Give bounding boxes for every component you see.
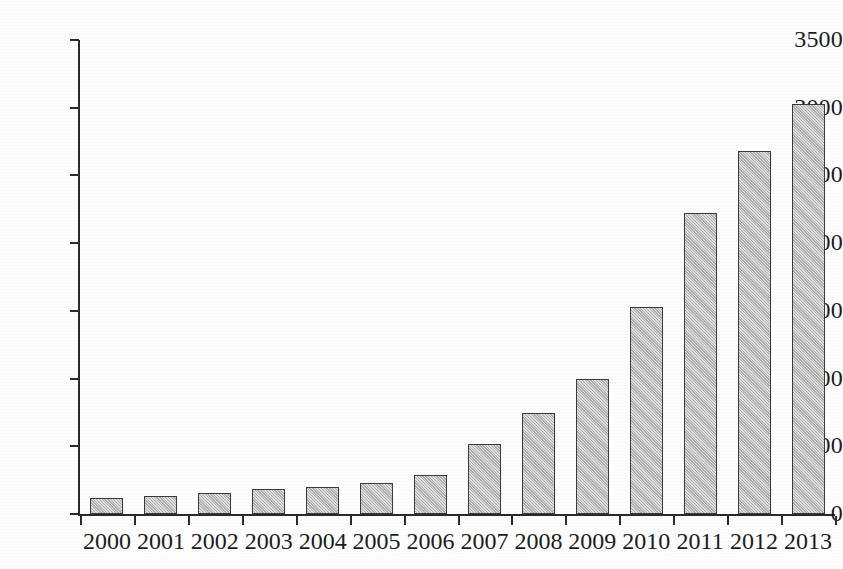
x-tick-mark <box>404 516 406 525</box>
x-tick-mark <box>458 516 460 525</box>
x-tick-label: 2002 <box>185 528 245 554</box>
x-tick-mark <box>350 516 352 525</box>
bar-2013 <box>792 104 825 514</box>
bar-2002 <box>198 493 231 514</box>
x-tick-label: 2010 <box>616 528 676 554</box>
bar-2012 <box>738 151 771 514</box>
bar-2011 <box>684 213 717 514</box>
x-tick-label: 2009 <box>562 528 622 554</box>
x-tick-mark <box>727 516 729 525</box>
bar-2009 <box>576 379 609 514</box>
bar-chart: 0500100015002000250030003500 20002001200… <box>0 0 843 569</box>
bar-2008 <box>522 413 555 514</box>
y-tick-mark <box>70 310 79 312</box>
x-tick-mark <box>80 516 82 525</box>
bar-2007 <box>468 444 501 514</box>
x-tick-label: 2006 <box>401 528 461 554</box>
y-tick-mark <box>70 39 79 41</box>
x-tick-label: 2008 <box>508 528 568 554</box>
bar-2004 <box>306 487 339 514</box>
x-tick-label: 2005 <box>347 528 407 554</box>
y-tick-mark <box>70 174 79 176</box>
x-tick-mark <box>781 516 783 525</box>
x-tick-mark <box>673 516 675 525</box>
x-tick-mark <box>565 516 567 525</box>
x-tick-mark <box>511 516 513 525</box>
y-tick-mark <box>70 513 79 515</box>
bar-2000 <box>90 498 123 514</box>
x-tick-label: 2000 <box>77 528 137 554</box>
x-tick-mark <box>296 516 298 525</box>
x-axis-line <box>78 514 835 516</box>
x-tick-label: 2003 <box>239 528 299 554</box>
x-tick-label: 2004 <box>293 528 353 554</box>
x-tick-label: 2007 <box>454 528 514 554</box>
bar-2001 <box>144 496 177 514</box>
x-tick-mark <box>188 516 190 525</box>
x-tick-label: 2011 <box>670 528 730 554</box>
x-tick-label: 2012 <box>724 528 784 554</box>
bar-2005 <box>360 483 393 514</box>
bar-2003 <box>252 489 285 514</box>
y-tick-mark <box>70 107 79 109</box>
x-tick-mark <box>242 516 244 525</box>
bar-2006 <box>414 475 447 514</box>
bar-2010 <box>630 307 663 514</box>
x-tick-mark <box>835 516 837 525</box>
x-tick-label: 2001 <box>131 528 191 554</box>
y-tick-mark <box>70 445 79 447</box>
x-tick-mark <box>619 516 621 525</box>
y-tick-mark <box>70 242 79 244</box>
y-tick-label: 3500 <box>781 27 843 51</box>
y-tick-mark <box>70 378 79 380</box>
x-tick-mark <box>134 516 136 525</box>
x-tick-label: 2013 <box>778 528 838 554</box>
